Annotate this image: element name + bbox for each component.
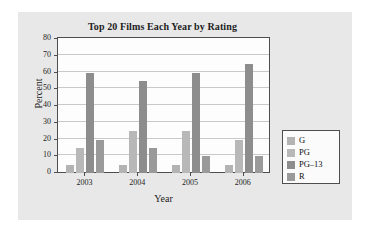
bars-layer: [59, 39, 270, 173]
bar: [139, 81, 147, 173]
bar: [149, 148, 157, 173]
y-tick-label: 50: [33, 84, 51, 92]
bar: [119, 165, 127, 173]
legend-swatch-icon: [287, 149, 295, 157]
x-tick-mark: [190, 173, 191, 176]
y-tick-label: 0: [33, 168, 51, 176]
x-tick-mark: [137, 173, 138, 176]
bar: [86, 73, 94, 174]
bar: [225, 165, 233, 173]
figure: Top 20 Films Each Year by Rating Percent…: [0, 0, 370, 234]
x-axis-title: Year: [57, 193, 270, 204]
legend-swatch-icon: [287, 161, 295, 169]
x-tick-label: 2006: [223, 179, 263, 187]
bar: [172, 165, 180, 173]
legend-label: PG: [299, 148, 310, 157]
bar: [255, 156, 263, 173]
x-tick-mark: [243, 173, 244, 176]
legend-label: R: [299, 172, 305, 181]
x-tick-label: 2005: [170, 179, 210, 187]
legend-label: PG–13: [299, 160, 323, 169]
bar: [192, 73, 200, 174]
bar: [96, 140, 104, 174]
y-tick-label: 80: [33, 34, 51, 42]
legend: GPGPG–13R: [282, 130, 340, 184]
legend-item: PG: [287, 147, 339, 158]
bar: [76, 148, 84, 173]
y-tick-label: 20: [33, 135, 51, 143]
legend-item: R: [287, 171, 339, 182]
y-tick-label: 30: [33, 118, 51, 126]
legend-swatch-icon: [287, 173, 295, 181]
legend-label: G: [299, 136, 305, 145]
y-tick-label: 40: [33, 101, 51, 109]
x-tick-label: 2003: [64, 179, 104, 187]
y-tick-label: 60: [33, 68, 51, 76]
bar: [235, 140, 243, 174]
legend-item: PG–13: [287, 159, 339, 170]
bar: [182, 131, 190, 173]
bar: [202, 156, 210, 173]
x-tick-label: 2004: [117, 179, 157, 187]
y-tick-label: 10: [33, 151, 51, 159]
legend-item: G: [287, 135, 339, 146]
x-tick-mark: [84, 173, 85, 176]
bar: [245, 64, 253, 173]
plot-area: [57, 37, 270, 173]
bar: [66, 165, 74, 173]
bar: [129, 131, 137, 173]
legend-swatch-icon: [287, 137, 295, 145]
y-tick-label: 70: [33, 51, 51, 59]
